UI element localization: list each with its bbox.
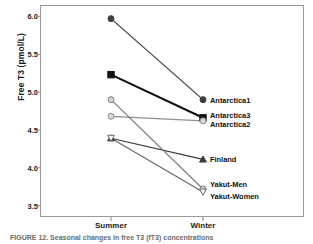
data-point-antarctica2 <box>200 118 206 124</box>
series-label-antarctica2: Antarctica2 <box>210 119 250 128</box>
series-line-yakut-women <box>111 138 203 192</box>
axis-tick-marks <box>37 16 204 221</box>
x-tick-label-winter: Winter <box>191 221 216 230</box>
series-label-antarctica3: Antarctica3 <box>210 110 250 119</box>
series-line-antarctica2 <box>111 116 203 121</box>
series-label-antarctica1: Antarctica1 <box>210 95 250 104</box>
data-point-yakut-men <box>108 97 114 103</box>
chart-canvas <box>0 0 313 244</box>
x-tick-label-summer: Summer <box>95 221 127 230</box>
series-line-antarctica1 <box>111 19 203 100</box>
series-label-finland: Finland <box>210 155 236 164</box>
data-point-antarctica3 <box>108 71 114 77</box>
data-point-antarctica2 <box>108 113 114 119</box>
series-line-yakut-men <box>111 100 203 189</box>
series-markers <box>108 16 207 196</box>
figure-container: Free T3 (pmol/L) 6.05.55.04.54.03.5 Summ… <box>0 0 313 244</box>
series-label-yakut-men: Yakut-Men <box>210 179 247 188</box>
data-point-antarctica1 <box>108 16 114 22</box>
series-label-yakut-women: Yakut-Women <box>210 192 259 201</box>
series-lines <box>111 19 203 192</box>
data-point-yakut-women <box>200 189 207 195</box>
figure-caption: FIGURE 12. Seasonal changes in free T3 (… <box>10 234 310 244</box>
data-point-antarctica1 <box>200 97 206 103</box>
series-line-finland <box>111 138 203 159</box>
series-line-antarctica3 <box>111 75 203 118</box>
